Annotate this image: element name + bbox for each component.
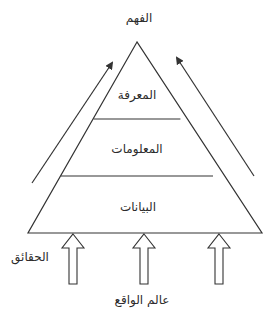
arrow-up-right-icon (32, 63, 112, 183)
hollow-arrow-up-icon (208, 234, 230, 284)
level-label-information: المعلومات (111, 142, 162, 156)
level-label-data: البيانات (120, 200, 156, 214)
apex-label-understanding: الفهم (126, 11, 153, 25)
source-label-real-world: عالم الواقع (115, 293, 170, 307)
arrow-up-left-icon (177, 58, 254, 176)
input-label-facts: الحقائق (11, 250, 49, 264)
level-label-knowledge: المعرفة (118, 88, 157, 102)
hollow-arrow-up-icon (133, 234, 155, 284)
dikw-diagram: الفهم المعرفة المعلومات البيانات الحقائق… (0, 0, 277, 322)
diagram-canvas (0, 0, 277, 322)
hollow-arrow-up-icon (62, 234, 84, 284)
